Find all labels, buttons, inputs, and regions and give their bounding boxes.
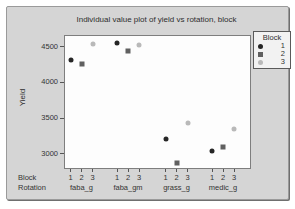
data-point <box>163 137 168 142</box>
data-point <box>185 121 190 126</box>
data-point <box>90 41 95 46</box>
legend-entries: 123 <box>256 42 288 66</box>
data-point <box>115 41 120 46</box>
x-tick-mark <box>176 169 177 172</box>
y-tick-label: 3500 <box>34 114 58 122</box>
y-tick-mark <box>60 46 64 47</box>
chart-title: Individual value plot of yield vs rotati… <box>54 15 259 24</box>
x-tick-mark <box>70 169 71 172</box>
rotation-category-label: faba_gm <box>113 184 142 192</box>
block-level-label: 2 <box>174 174 178 182</box>
legend: Block 123 <box>253 31 291 69</box>
y-tick-label: 3000 <box>34 150 58 158</box>
x-tick-mark <box>187 169 188 172</box>
block-level-label: 1 <box>115 174 119 182</box>
x-tick-mark <box>128 169 129 172</box>
rotation-row-header: Rotation <box>18 184 46 192</box>
block-level-label: 2 <box>79 174 83 182</box>
x-tick-mark <box>223 169 224 172</box>
block-level-label: 3 <box>90 174 94 182</box>
block-level-label: 3 <box>232 174 236 182</box>
block-level-label: 2 <box>221 174 225 182</box>
y-tick-mark <box>60 82 64 83</box>
y-axis-title: Yield <box>18 87 27 109</box>
data-point <box>174 161 179 166</box>
legend-entry: 3 <box>256 58 288 66</box>
data-point <box>137 43 142 48</box>
block-level-label: 1 <box>68 174 72 182</box>
block-level-label: 1 <box>210 174 214 182</box>
x-tick-mark <box>117 169 118 172</box>
x-tick-mark <box>81 169 82 172</box>
legend-marker-circle-icon <box>258 44 263 49</box>
legend-marker-circle-icon <box>258 60 263 65</box>
block-row-header: Block <box>18 174 36 182</box>
legend-marker-square-icon <box>258 52 263 57</box>
data-point <box>232 127 237 132</box>
block-level-label: 3 <box>185 174 189 182</box>
x-tick-mark <box>165 169 166 172</box>
block-level-label: 2 <box>126 174 130 182</box>
rotation-category-label: faba_g <box>70 184 93 192</box>
x-tick-mark <box>139 169 140 172</box>
block-level-label: 1 <box>163 174 167 182</box>
y-tick-mark <box>60 153 64 154</box>
data-point <box>79 61 84 66</box>
y-tick-label: 4000 <box>34 79 58 87</box>
block-level-label: 3 <box>137 174 141 182</box>
x-tick-mark <box>212 169 213 172</box>
y-tick-mark <box>60 118 64 119</box>
screenshot-root: Individual value plot of yield vs rotati… <box>0 0 295 209</box>
y-tick-label: 4500 <box>34 43 58 51</box>
data-point <box>221 144 226 149</box>
x-tick-mark <box>234 169 235 172</box>
rotation-category-label: medic_g <box>209 184 237 192</box>
data-point <box>126 48 131 53</box>
rotation-category-label: grass_g <box>163 184 190 192</box>
data-point <box>68 58 73 63</box>
plot-panel: Individual value plot of yield vs rotati… <box>6 6 289 200</box>
legend-entry-label: 3 <box>281 58 285 66</box>
x-tick-mark <box>92 169 93 172</box>
data-point <box>210 148 215 153</box>
